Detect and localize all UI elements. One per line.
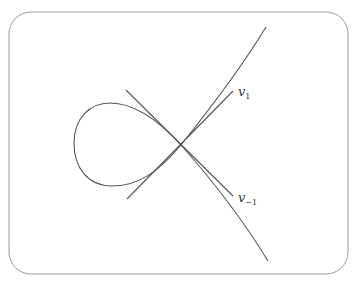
label-v-minus-1: v−1: [238, 190, 257, 207]
label-vm1-subscript: −1: [245, 198, 257, 207]
nodal-curve: [74, 27, 268, 261]
nodal-curve-diagram: v1 v−1: [0, 0, 357, 282]
tangent-line-v-minus-1: [126, 90, 233, 196]
label-v1-subscript: 1: [245, 92, 250, 101]
label-v1: v1: [238, 84, 250, 101]
